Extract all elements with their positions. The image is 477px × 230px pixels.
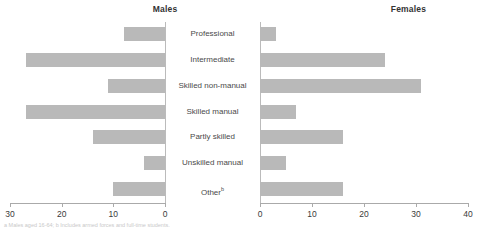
- bar-females-professional: [260, 27, 276, 41]
- bar-males-skilled-manual: [26, 105, 166, 119]
- chart-row: Skilled manual: [0, 100, 477, 124]
- category-label: Partly skilled: [165, 125, 260, 149]
- pyramid-chart-plot-area: ProfessionalIntermediateSkilled non-manu…: [0, 0, 477, 230]
- chart-row: Skilled non-manual: [0, 74, 477, 98]
- bar-males-skilled-non-manual: [108, 79, 165, 93]
- chart-footnote: a Males aged 16-64; b Includes armed for…: [4, 222, 170, 228]
- right-axis-tick: [416, 203, 417, 207]
- chart-row: Unskilled manual: [0, 151, 477, 175]
- right-axis-tick-label: 30: [411, 209, 420, 219]
- bar-females-other: [260, 182, 343, 196]
- chart-row: Otherb: [0, 177, 477, 201]
- category-label: Otherb: [165, 177, 260, 201]
- right-axis-tick: [312, 203, 313, 207]
- chart-row: Professional: [0, 22, 477, 46]
- category-label: Unskilled manual: [165, 151, 260, 175]
- chart-row: Intermediate: [0, 48, 477, 72]
- right-axis-tick-label: 40: [463, 209, 472, 219]
- bar-males-other: [113, 182, 165, 196]
- bar-females-unskilled-manual: [260, 156, 286, 170]
- bar-males-partly-skilled: [93, 130, 165, 144]
- bar-males-professional: [124, 27, 165, 41]
- bar-females-intermediate: [260, 53, 385, 67]
- left-axis-tick: [62, 203, 63, 207]
- bar-males-unskilled-manual: [144, 156, 165, 170]
- left-axis-tick-label: 20: [57, 209, 66, 219]
- right-axis-tick: [364, 203, 365, 207]
- right-axis-tick-label: 10: [307, 209, 316, 219]
- category-label: Skilled non-manual: [165, 74, 260, 98]
- bar-females-skilled-manual: [260, 105, 296, 119]
- left-axis-tick: [10, 203, 11, 207]
- bar-males-intermediate: [26, 53, 166, 67]
- chart-row: Partly skilled: [0, 125, 477, 149]
- bar-females-skilled-non-manual: [260, 79, 421, 93]
- left-axis-tick-label: 30: [5, 209, 14, 219]
- right-axis-tick-label: 20: [359, 209, 368, 219]
- category-label: Professional: [165, 22, 260, 46]
- category-label: Skilled manual: [165, 100, 260, 124]
- left-axis-tick: [113, 203, 114, 207]
- right-axis-tick: [260, 203, 261, 207]
- category-label: Intermediate: [165, 48, 260, 72]
- left-axis-line: [10, 203, 166, 204]
- bar-females-partly-skilled: [260, 130, 343, 144]
- right-axis-tick: [468, 203, 469, 207]
- right-axis-tick-label: 0: [258, 209, 263, 219]
- left-axis-tick-label: 10: [109, 209, 118, 219]
- left-axis-tick: [165, 203, 166, 207]
- left-axis-tick-label: 0: [163, 209, 168, 219]
